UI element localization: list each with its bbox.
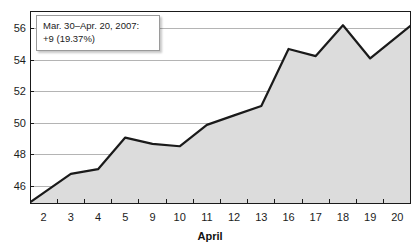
x-axis-tick-label: 16 (275, 212, 302, 223)
tooltip-line-1: Mar. 30–Apr. 20, 2007: (43, 20, 153, 33)
x-axis-tick-label: 2 (30, 212, 57, 223)
y-axis-tick-label: 56 (2, 23, 26, 34)
x-axis-title: April (0, 230, 420, 242)
x-axis-tick-label: 5 (112, 212, 139, 223)
x-axis-tick-label: 20 (384, 212, 411, 223)
y-axis-tick-label: 54 (2, 55, 26, 66)
y-axis-tick-label: 50 (2, 118, 26, 129)
x-axis-tick-label: 3 (57, 212, 84, 223)
y-axis-tick-label: 52 (2, 86, 26, 97)
area-fill (30, 25, 411, 204)
area-chart: 464850525456 23459101112131617181920 Apr… (0, 0, 420, 251)
x-axis-tick-label: 11 (193, 212, 220, 223)
x-axis-tick-label: 10 (166, 212, 193, 223)
x-axis-tick-label: 19 (357, 212, 384, 223)
x-axis-tick-label: 4 (84, 212, 111, 223)
tooltip-line-2: +9 (19.37%) (43, 33, 153, 46)
x-axis-tick-label: 12 (221, 212, 248, 223)
range-tooltip: Mar. 30–Apr. 20, 2007: +9 (19.37%) (36, 15, 160, 51)
y-axis-tick-label: 46 (2, 181, 26, 192)
y-axis-tick-label: 48 (2, 149, 26, 160)
x-axis-tick-label: 9 (139, 212, 166, 223)
x-axis-tick-label: 13 (248, 212, 275, 223)
x-axis-tick-label: 18 (329, 212, 356, 223)
x-axis-tick-label: 17 (302, 212, 329, 223)
